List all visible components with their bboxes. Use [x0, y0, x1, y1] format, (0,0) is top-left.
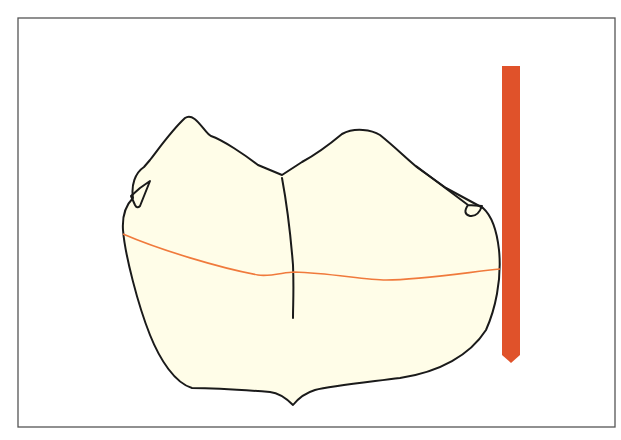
diagram-frame [0, 0, 621, 440]
analyzing-rod [502, 66, 520, 363]
tooth-diagram [0, 0, 621, 440]
